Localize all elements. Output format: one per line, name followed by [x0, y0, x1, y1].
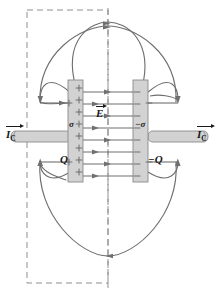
sigma-negative-label: −σ	[135, 120, 145, 129]
current-left-vector-bar	[6, 126, 21, 127]
fringing-field-lines-right-upper	[150, 95, 178, 100]
charge-negative-label: −Q	[148, 154, 163, 165]
current-right-subscript: C	[201, 134, 206, 143]
current-left-label: IC	[6, 129, 16, 143]
current-left-vector-arrowhead	[20, 124, 24, 128]
current-right-vector-bar	[197, 126, 212, 127]
current-left-subscript: C	[10, 134, 15, 143]
left-wire	[11, 131, 71, 142]
current-right-vector-arrowhead	[211, 124, 215, 128]
fringing-field-lines-bottom	[37, 158, 180, 258]
sigma-positive-label: σ	[69, 120, 74, 129]
right-plate	[133, 80, 148, 182]
figure-canvas: IC IC E σ −σ Q −Q	[0, 0, 220, 296]
capacitor-field-diagram	[0, 0, 220, 296]
field-vector-arrowhead	[103, 104, 107, 108]
dashed-boundary-box	[27, 10, 108, 283]
field-label: E	[96, 108, 103, 119]
charge-positive-label: Q	[60, 154, 68, 165]
current-right-label: IC	[197, 129, 207, 143]
left-plate	[68, 80, 83, 182]
